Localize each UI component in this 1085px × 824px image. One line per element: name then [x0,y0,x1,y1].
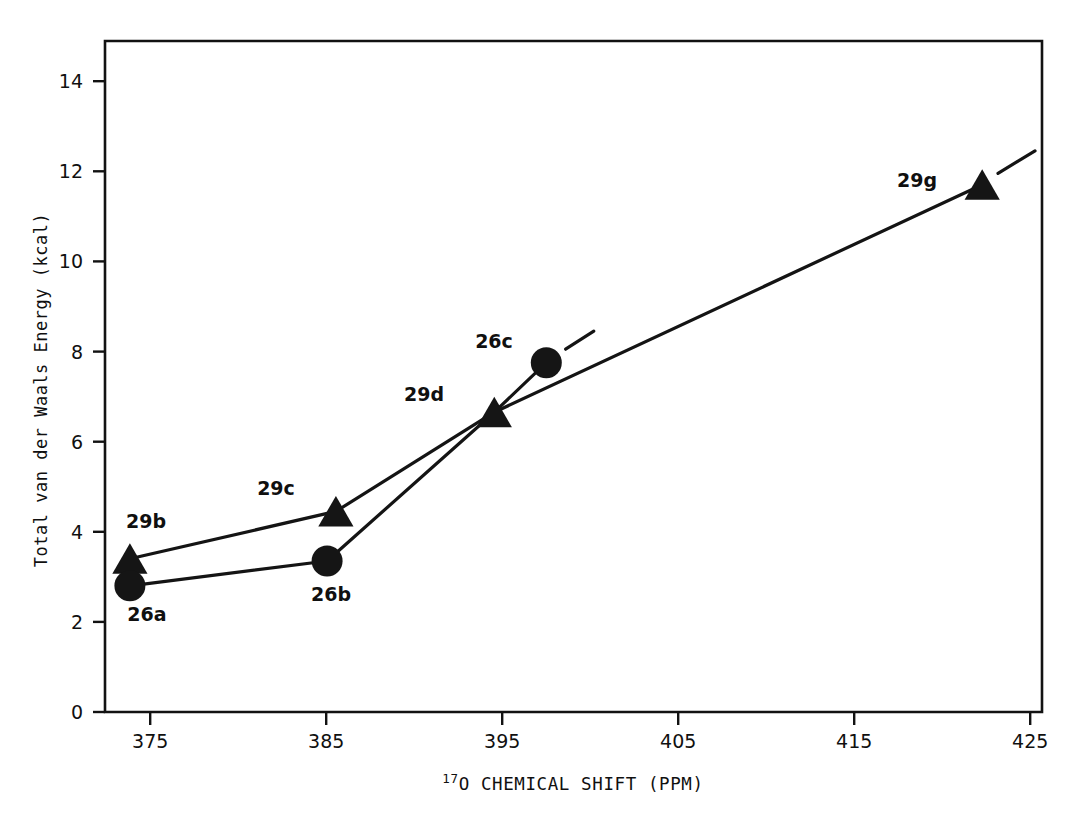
marker-26a[interactable] [114,570,145,601]
y-tick-label-10: 10 [59,250,83,272]
y-tick-label-8: 8 [71,341,83,363]
y-tick-label-2: 2 [71,611,83,633]
point-label-29d: 29d [404,383,444,405]
x-axis-title: 17O CHEMICAL SHIFT (PPM) [442,771,703,795]
x-tick-label-385: 385 [308,730,344,752]
y-tick-labels: 0 2 4 6 8 10 12 14 [59,70,83,723]
point-label-29g: 29g [897,169,937,191]
x-tick-label-415: 415 [836,730,872,752]
x-axis-title-text: O CHEMICAL SHIFT (PPM) [459,774,704,794]
marker-26c[interactable] [531,347,562,378]
y-axis-ticks [93,81,105,712]
chart-figure: 0 2 4 6 8 10 12 14 375 385 395 405 415 4… [0,0,1085,824]
y-axis-title-text: Total van der Waals Energy (kcal) [31,213,51,567]
marker-29c[interactable] [318,496,353,527]
y-tick-label-6: 6 [71,431,83,453]
x-tick-label-405: 405 [660,730,696,752]
trend-stub-26c [566,331,594,349]
marker-29g[interactable] [965,169,1000,200]
svg-text:17O CHEMICAL SHIFT (PPM): 17O CHEMICAL SHIFT (PPM) [442,771,703,795]
point-labels: 29b 29c 29d 29g 26a 26b 26c [126,169,937,625]
x-axis-ticks [150,712,1030,725]
point-label-29b: 29b [126,510,166,532]
markers-26-series [114,347,561,601]
x-tick-label-395: 395 [484,730,520,752]
point-label-29c: 29c [257,477,295,499]
marker-29b[interactable] [112,543,147,574]
x-tick-labels: 375 385 395 405 415 425 [132,730,1048,752]
point-label-26c: 26c [475,330,513,352]
point-label-26b: 26b [311,583,351,605]
x-tick-label-425: 425 [1012,730,1048,752]
marker-26b[interactable] [312,546,343,577]
trend-stub-29g [998,151,1035,174]
chart-canvas: 0 2 4 6 8 10 12 14 375 385 395 405 415 4… [0,0,1085,824]
y-tick-label-4: 4 [71,521,83,543]
trend-stubs [566,151,1035,349]
x-tick-label-375: 375 [132,730,168,752]
y-tick-label-14: 14 [59,70,83,92]
y-axis-title: Total van der Waals Energy (kcal) [31,213,51,567]
y-tick-label-12: 12 [59,160,83,182]
y-tick-label-0: 0 [71,701,83,723]
x-axis-title-superscript: 17 [442,771,458,786]
point-label-26a: 26a [127,603,166,625]
